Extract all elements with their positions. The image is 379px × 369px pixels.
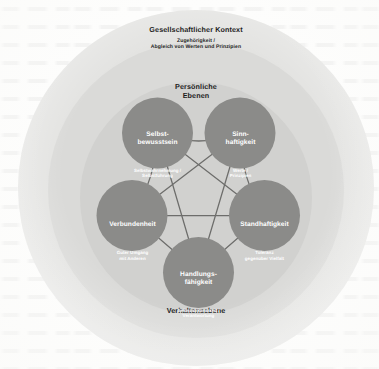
ring-label-persoenliche-ebenen: Persönliche Ebenen [131, 82, 261, 100]
node-subtitle-handlungsfaehigkeit: Selbstwirksamkeit / Verantwortung [158, 308, 239, 319]
node-subtitle-selbstbewusstsein: Selbstwahrnehmung / Selbstführung [117, 168, 198, 179]
node-subtitle-sinnhaftigkeit: Werte / Prinzipien [200, 168, 281, 179]
node-subtitle-verbundenheit: Guter Umgang mit Anderen [91, 250, 174, 261]
node-title-verbundenheit: Verbundenheit [91, 221, 174, 229]
ring-label-gesellschaftlicher-kontext: Gesellschaftlicher Kontext [99, 26, 293, 34]
node-title-sinnhaftigkeit: Sinn- haftigkeit [200, 131, 281, 147]
ring-sublabel-gesellschaftlicher-kontext: Zugehörigkeit / Abgleich von Werten und … [99, 38, 293, 50]
node-title-standhaftigkeit: Standhaftigkeit [223, 221, 306, 229]
node-title-selbstbewusstsein: Selbst- bewusstsein [117, 131, 198, 147]
model-diagram: Gesellschaftlicher Kontext Zugehörigkeit… [0, 0, 379, 369]
node-label-verbundenheit[interactable]: Verbundenheit Guter Umgang mit Anderen [91, 203, 174, 279]
node-label-selbstbewusstsein[interactable]: Selbst- bewusstsein Selbstwahrnehmung / … [117, 113, 198, 197]
node-label-sinnhaftigkeit[interactable]: Sinn- haftigkeit Werte / Prinzipien [200, 113, 281, 197]
